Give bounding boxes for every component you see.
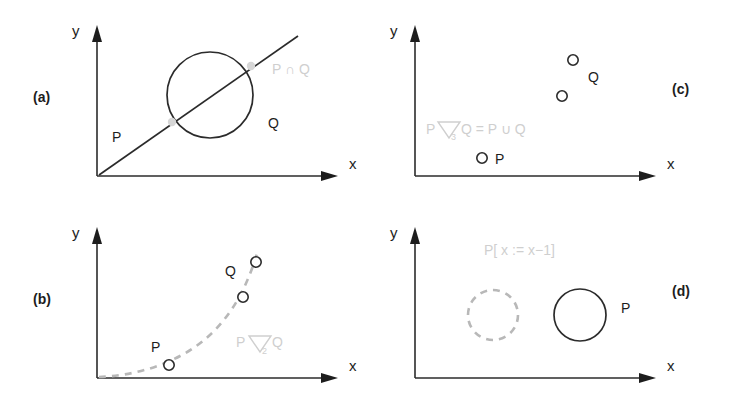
panel-b-y-axis-label: y: [72, 224, 80, 241]
panel-a-y-axis-label: y: [72, 22, 80, 39]
panel-a-y-axis-arrowhead: [92, 25, 102, 42]
panel-a-axes: y x: [72, 22, 357, 181]
panel-c-annotation-prefix: P: [426, 121, 435, 137]
panel-a-predicate-p-line: [99, 36, 298, 175]
panel-d-x-axis-label: x: [667, 357, 675, 374]
panel-b-x-axis-arrowhead: [321, 373, 338, 383]
panel-c-label-q: Q: [588, 69, 599, 85]
diagram-svg: y x P Q P ∩ Q (a) y x: [0, 0, 734, 404]
panel-a-intersection-mark-upper: [247, 62, 255, 70]
panel-b-annotation-prefix: P: [236, 334, 245, 350]
panel-b-point-p: [164, 360, 174, 370]
panel-b-letter: (b): [33, 291, 51, 307]
panel-d-label-p: P: [621, 300, 630, 316]
panel-c: y x Q P P 3 Q = P ∪ Q (c): [390, 22, 689, 181]
panel-a: y x P Q P ∩ Q (a): [33, 22, 357, 181]
panel-c-point-q-upper: [568, 55, 578, 65]
panel-d-predicate-p-circle: [554, 289, 606, 341]
panel-c-point-p: [477, 153, 487, 163]
panel-a-predicate-q-circle: [167, 52, 253, 138]
panel-d: y x P P[ x := x−1] (d): [390, 224, 690, 383]
panel-b-annotation-suffix: Q: [272, 334, 283, 350]
panel-c-annotation-suffix: Q = P ∪ Q: [461, 121, 526, 137]
panel-b-label-q: Q: [225, 263, 236, 279]
panel-b-axes: y x: [72, 224, 357, 383]
panel-a-x-axis-arrowhead: [321, 171, 338, 181]
panel-a-x-axis-label: x: [349, 155, 357, 172]
panel-d-y-axis-label: y: [390, 224, 398, 241]
panel-b-label-p: P: [151, 339, 160, 355]
panel-c-axes: y x: [390, 22, 675, 181]
panel-a-letter: (a): [33, 89, 50, 105]
panel-d-annotation-substitution: P[ x := x−1]: [484, 242, 555, 258]
panel-c-x-axis-arrowhead: [639, 171, 656, 181]
panel-c-point-mid: [557, 91, 567, 101]
panel-c-y-axis-arrowhead: [410, 25, 420, 42]
panel-c-letter: (c): [672, 81, 689, 97]
panel-c-annotation-subscript: 3: [451, 132, 456, 142]
panel-d-x-axis-arrowhead: [639, 373, 656, 383]
panel-c-annotation-union: P 3 Q = P ∪ Q: [426, 121, 526, 142]
panel-c-nabla-icon: [438, 122, 460, 138]
panel-d-letter: (d): [672, 283, 690, 299]
panel-a-label-p: P: [112, 129, 121, 145]
panel-a-label-q: Q: [268, 115, 279, 131]
panel-b-y-axis-arrowhead: [92, 227, 102, 244]
panel-b-point-q: [251, 257, 261, 267]
panel-b-point-mid: [238, 292, 248, 302]
panel-d-y-axis-arrowhead: [410, 227, 420, 244]
panel-b: y x P Q P 2 Q (b): [33, 224, 357, 383]
panel-c-label-p: P: [495, 151, 504, 167]
panel-a-intersection-mark-lower: [168, 118, 176, 126]
panel-c-y-axis-label: y: [390, 22, 398, 39]
panel-b-nabla-icon: [249, 336, 271, 352]
panel-b-x-axis-label: x: [349, 357, 357, 374]
panel-c-x-axis-label: x: [667, 155, 675, 172]
panel-d-substituted-predicate-circle: [468, 290, 518, 340]
figure-canvas: y x P Q P ∩ Q (a) y x: [0, 0, 734, 404]
panel-b-annotation-widening: P 2 Q: [236, 334, 283, 356]
panel-a-annotation-intersection: P ∩ Q: [272, 61, 310, 77]
panel-b-annotation-subscript: 2: [262, 346, 267, 356]
